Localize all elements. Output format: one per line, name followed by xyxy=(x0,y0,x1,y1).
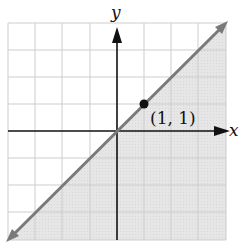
x-axis-label: x xyxy=(229,120,239,140)
y-axis-label: y xyxy=(110,2,121,22)
point-label: (1, 1) xyxy=(150,108,196,128)
inequality-graph: (1, 1) x y xyxy=(0,0,239,249)
point-1-1 xyxy=(140,100,149,109)
y-axis-arrow-icon xyxy=(112,27,122,43)
